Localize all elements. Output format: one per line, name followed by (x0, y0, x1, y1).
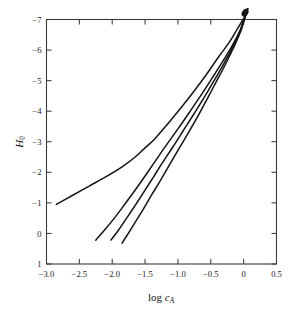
x-tick-label: −2.0 (104, 269, 120, 279)
x-tick-label: 0 (241, 269, 245, 279)
y-tick-label: −3 (32, 137, 41, 147)
y-tick-label: 1 (37, 259, 41, 269)
y-tick-label: 0 (37, 229, 41, 239)
y-tick-label: −2 (32, 167, 41, 177)
x-tick-label: 0.5 (271, 269, 282, 279)
x-tick-label: −1.0 (170, 269, 186, 279)
x-tick-label: −1.5 (137, 269, 153, 279)
y-tick-label: −1 (32, 198, 41, 208)
x-tick-label: −3.0 (39, 269, 55, 279)
x-tick-label: −2.5 (72, 269, 88, 279)
y-tick-label: −6 (32, 45, 42, 55)
chart-plot: −3.0−2.5−2.0−1.5−1.0−0.500.5 −7−6−5−4−3−… (0, 0, 306, 315)
x-tick-label: −0.5 (203, 269, 219, 279)
y-tick-label: −5 (32, 76, 41, 86)
y-tick-label: −7 (32, 15, 42, 25)
y-tick-label: −4 (32, 106, 42, 116)
figure-container: −3.0−2.5−2.0−1.5−1.0−0.500.5 −7−6−5−4−3−… (0, 0, 306, 315)
